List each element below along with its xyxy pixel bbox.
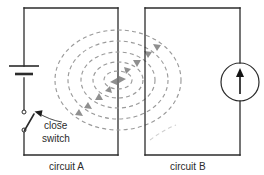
circuit-diagram-svg: close switch bbox=[0, 0, 264, 175]
field-arrow-outer-bottomleft bbox=[75, 109, 83, 116]
circuit-b-label: circuit B bbox=[170, 161, 206, 172]
callout-arrowhead bbox=[35, 110, 43, 117]
current-meter-symbol bbox=[221, 63, 259, 101]
circuit-b-loop bbox=[145, 8, 240, 155]
field-arrow-1-right bbox=[119, 76, 126, 83]
close-switch-label-line2: switch bbox=[42, 133, 70, 144]
meter-arrow-head bbox=[236, 68, 244, 77]
switch-blade[interactable] bbox=[25, 114, 35, 131]
battery-symbol bbox=[9, 66, 39, 74]
switch-top-terminal bbox=[22, 110, 26, 114]
field-arrow-2-bottomleft bbox=[105, 86, 112, 93]
circuit-a-loop bbox=[24, 8, 118, 155]
open-switch-symbol[interactable] bbox=[22, 110, 34, 132]
field-line-faint-fragment bbox=[150, 125, 176, 140]
field-arrow-4-bottomleft bbox=[84, 102, 92, 109]
field-arrow-1-left bbox=[110, 78, 117, 85]
field-arrow-outer-topright bbox=[153, 44, 161, 51]
figure-canvas: close switch bbox=[0, 0, 264, 175]
close-switch-label-line1: close bbox=[44, 120, 68, 131]
circuit-a-label: circuit A bbox=[49, 161, 84, 172]
field-arrow-2-topright bbox=[124, 67, 131, 74]
